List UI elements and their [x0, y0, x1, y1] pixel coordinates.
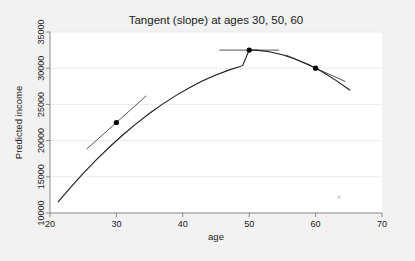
x-axis-title: age: [208, 231, 224, 242]
x-tick-label: 20: [45, 219, 55, 229]
data-point-marker: [114, 120, 119, 125]
plot-area-background: [50, 32, 382, 213]
stray-artifact-mark: [338, 196, 341, 200]
x-tick-label: 30: [111, 219, 121, 229]
y-tick-label: 35000: [36, 19, 46, 44]
chart-container: 100001500020000250003000035000 203040506…: [0, 0, 415, 261]
y-tick-label: 30000: [36, 56, 46, 81]
y-tick-label: 25000: [36, 92, 46, 117]
tangent-slope-chart: 100001500020000250003000035000 203040506…: [0, 0, 415, 261]
y-axis-title: Predicted income: [13, 86, 24, 159]
x-tick-label: 60: [311, 219, 321, 229]
y-tick-label: 15000: [36, 164, 46, 189]
y-tick-label: 20000: [36, 128, 46, 153]
data-point-marker: [247, 48, 252, 53]
x-tick-label: 70: [377, 219, 387, 229]
x-tick-label: 40: [178, 219, 188, 229]
data-point-marker: [313, 66, 318, 71]
x-tick-label: 50: [244, 219, 254, 229]
chart-title: Tangent (slope) at ages 30, 50, 60: [129, 14, 304, 26]
